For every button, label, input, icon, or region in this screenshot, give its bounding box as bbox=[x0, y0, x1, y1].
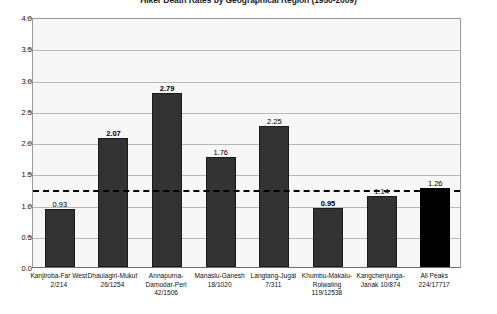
plot-area: 0.932.072.791.762.250.951.141.26 bbox=[32, 18, 461, 268]
x-axis-category-label: Annapurna-Damodar-Peri42/1506 bbox=[135, 272, 197, 298]
bar-chart: Hiker Death Rates by Geographical Region… bbox=[0, 0, 497, 314]
x-axis-labels: Kanjiroba-Far West2/214Dhaulagiri-Mukut2… bbox=[32, 272, 461, 314]
bar bbox=[45, 209, 75, 267]
y-axis: 0.51.01.52.02.53.03.54.00.0 bbox=[0, 0, 32, 314]
x-axis-category-label: Dhaulagiri-Mukut26/1254 bbox=[82, 272, 144, 289]
gridline bbox=[33, 144, 460, 145]
bar-value-label: 0.95 bbox=[321, 199, 336, 208]
bar bbox=[367, 196, 397, 267]
gridline bbox=[33, 82, 460, 83]
bar bbox=[420, 188, 450, 267]
bar bbox=[152, 93, 182, 267]
gridline bbox=[33, 175, 460, 176]
bar-value-label: 2.07 bbox=[106, 129, 121, 138]
x-axis-category-label: Kangchenjunga-Janak 10/874 bbox=[350, 272, 412, 289]
x-axis-category-label: Manaslu-Ganesh18/1020 bbox=[189, 272, 251, 289]
bar-value-label: 1.26 bbox=[428, 179, 443, 188]
x-axis-category-label: Langtang-Jugal7/311 bbox=[243, 272, 305, 289]
average-reference-line bbox=[33, 190, 460, 192]
chart-title: Hiker Death Rates by Geographical Region… bbox=[0, 0, 497, 5]
bar-value-label: 2.25 bbox=[267, 117, 282, 126]
gridline bbox=[33, 50, 460, 51]
x-axis-category-label: All Peaks224/17717 bbox=[403, 272, 465, 289]
bar bbox=[206, 157, 236, 267]
bar bbox=[98, 138, 128, 267]
bar bbox=[259, 126, 289, 267]
x-axis-category-label: Khumbu-Makalu-Rolwaling119/12538 bbox=[296, 272, 358, 298]
x-axis-category-label: Kanjiroba-Far West2/214 bbox=[28, 272, 90, 289]
gridline bbox=[33, 113, 460, 114]
bar bbox=[313, 208, 343, 267]
bar-value-label: 0.93 bbox=[53, 200, 68, 209]
bar-value-label: 1.76 bbox=[213, 148, 228, 157]
bar-value-label: 2.79 bbox=[160, 84, 175, 93]
